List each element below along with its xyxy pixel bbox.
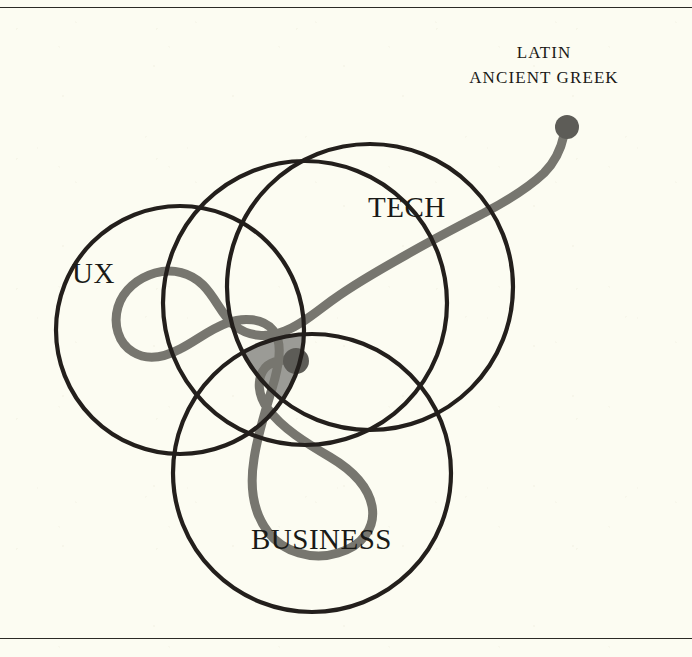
circle-label-business: BUSINESS [251,525,392,554]
core-overlap-shading [0,0,692,657]
circle-tech [227,144,513,430]
journey-path-end-dot [555,115,579,139]
circle-business [173,334,451,612]
venn-diagram-graphic [0,0,692,657]
circle-label-tech: TECH [368,193,446,222]
figure-canvas: UX TECH BUSINESS LATIN ANCIENT GREEK [0,0,692,657]
journey-path-group [116,115,579,556]
circle-label-ux: UX [72,259,115,288]
annotation-line-ancient-greek: ANCIENT GREEK [430,66,658,91]
journey-path [116,135,564,556]
annotation-line-latin: LATIN [430,41,658,66]
annotation-callout: LATIN ANCIENT GREEK [430,41,658,90]
